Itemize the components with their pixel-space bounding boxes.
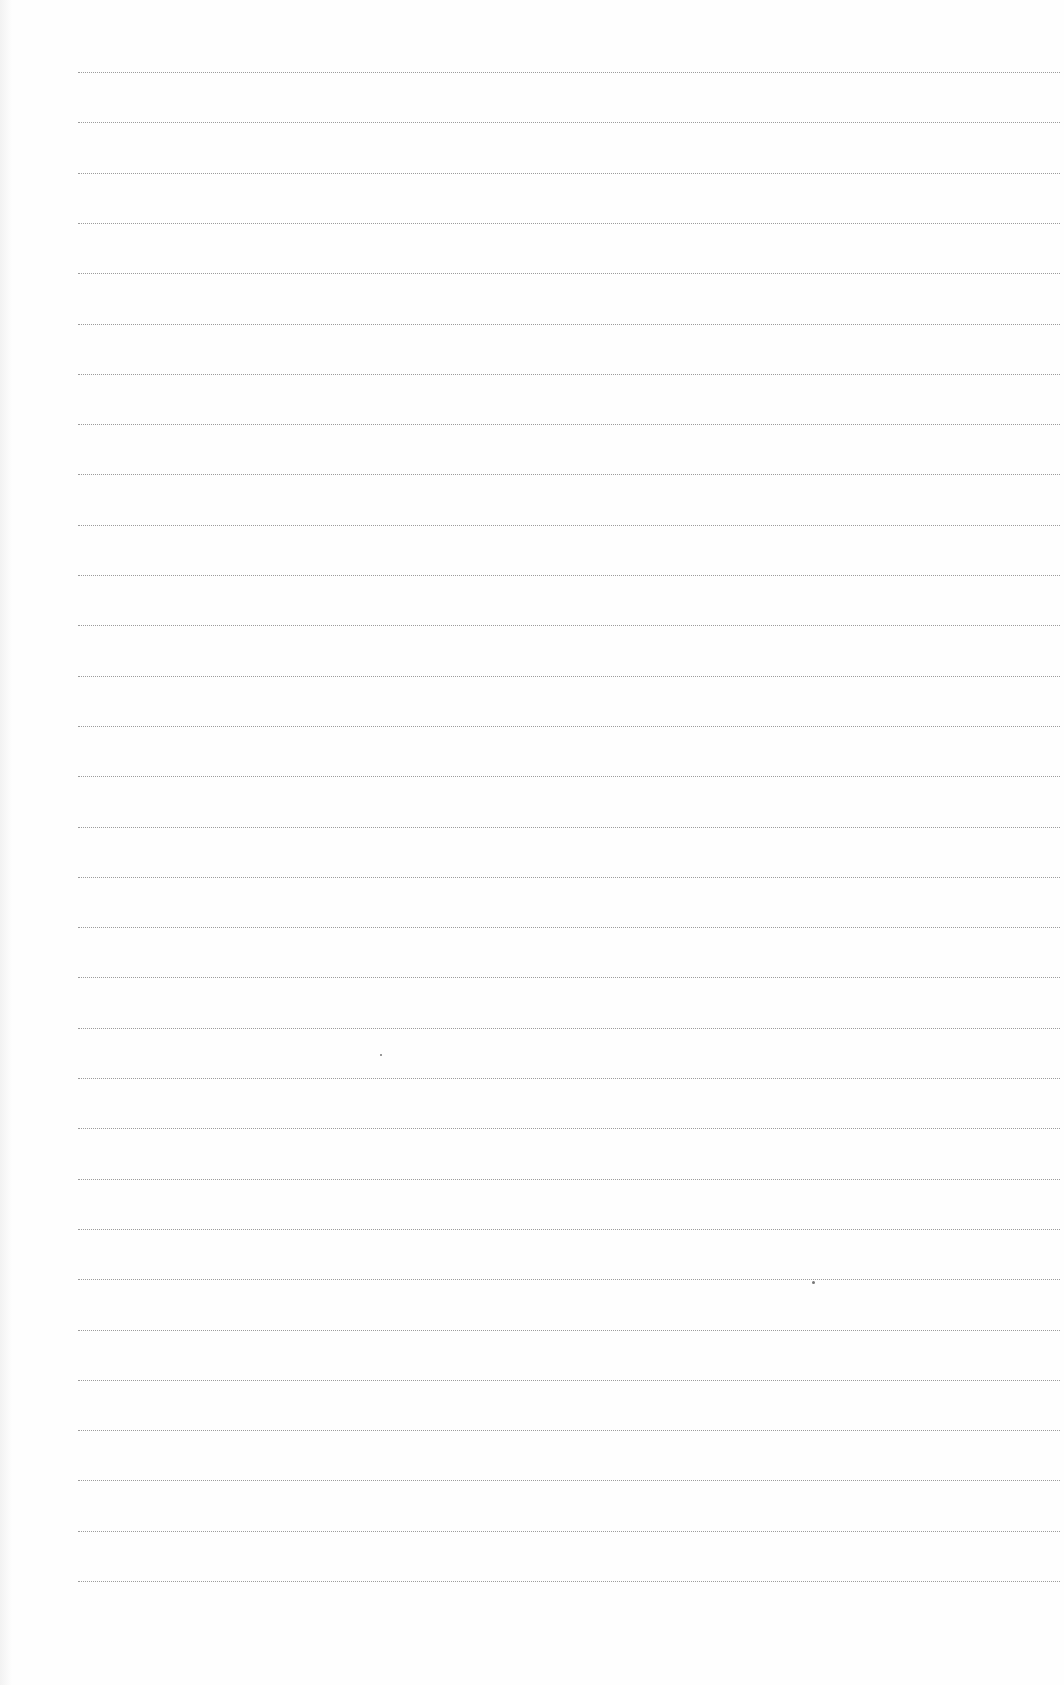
- ruled-line: [78, 1078, 1060, 1079]
- ruled-page: [0, 0, 1064, 1685]
- ruled-line: [78, 1380, 1060, 1381]
- ruled-line: [78, 223, 1060, 224]
- ruled-line: [78, 72, 1060, 73]
- ruled-line: [78, 927, 1060, 928]
- ruled-line: [78, 324, 1060, 325]
- ruled-line: [78, 424, 1060, 425]
- ruled-line: [78, 1430, 1060, 1431]
- ruled-line: [78, 827, 1060, 828]
- scan-speck: [812, 1281, 815, 1284]
- ruled-line: [78, 676, 1060, 677]
- scan-speck: [380, 1054, 382, 1056]
- scan-edge-shadow: [0, 0, 12, 1685]
- ruled-line: [78, 525, 1060, 526]
- ruled-line: [78, 1028, 1060, 1029]
- ruled-line: [78, 776, 1060, 777]
- ruled-line: [78, 474, 1060, 475]
- ruled-line: [78, 1279, 1060, 1280]
- ruled-line: [78, 1581, 1060, 1582]
- ruled-line: [78, 977, 1060, 978]
- ruled-line: [78, 1128, 1060, 1129]
- ruled-line: [78, 1330, 1060, 1331]
- ruled-line: [78, 122, 1060, 123]
- ruled-line: [78, 1229, 1060, 1230]
- ruled-line: [78, 374, 1060, 375]
- ruled-line: [78, 726, 1060, 727]
- ruled-line: [78, 1480, 1060, 1481]
- ruled-line: [78, 173, 1060, 174]
- ruled-line: [78, 575, 1060, 576]
- ruled-line: [78, 273, 1060, 274]
- ruled-line: [78, 1531, 1060, 1532]
- ruled-line: [78, 625, 1060, 626]
- ruled-line: [78, 1179, 1060, 1180]
- ruled-line: [78, 877, 1060, 878]
